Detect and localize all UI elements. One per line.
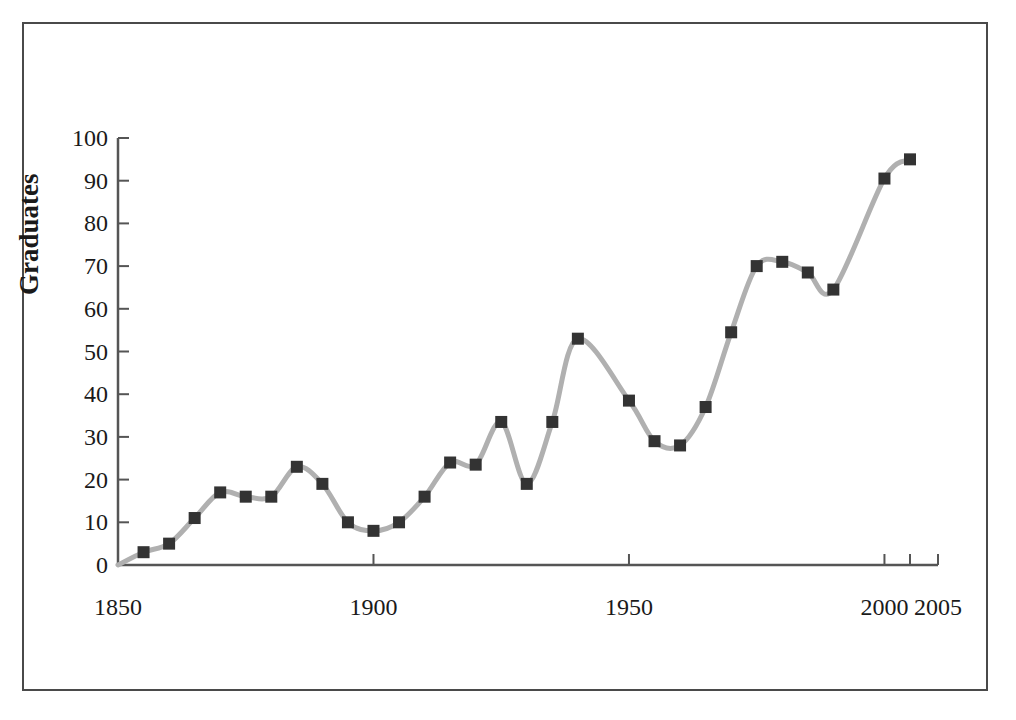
data-point-marker	[546, 416, 558, 428]
data-point-marker	[649, 435, 661, 447]
data-point-marker	[265, 491, 277, 503]
data-point-marker	[878, 173, 890, 185]
data-point-marker	[316, 478, 328, 490]
data-point-marker	[827, 284, 839, 296]
figure-container: Graduates 0102030405060708090100 1850190…	[0, 0, 1016, 720]
data-point-marker	[802, 267, 814, 279]
data-point-marker	[700, 401, 712, 413]
data-point-marker	[572, 333, 584, 345]
data-point-marker	[138, 546, 150, 558]
data-point-marker	[495, 416, 507, 428]
data-point-marker	[163, 538, 175, 550]
data-point-marker	[904, 153, 916, 165]
data-point-marker	[725, 326, 737, 338]
data-point-marker	[444, 457, 456, 469]
data-point-marker	[393, 516, 405, 528]
data-point-marker	[367, 525, 379, 537]
data-point-marker	[240, 491, 252, 503]
data-point-marker	[623, 395, 635, 407]
data-point-marker	[189, 512, 201, 524]
data-point-marker	[419, 491, 431, 503]
data-point-marker	[214, 486, 226, 498]
line-chart-plot	[0, 0, 1016, 720]
data-point-marker	[521, 478, 533, 490]
data-point-marker	[751, 260, 763, 272]
data-series-line	[118, 159, 910, 565]
data-point-marker	[776, 256, 788, 268]
data-point-marker	[470, 459, 482, 471]
data-point-marker	[342, 516, 354, 528]
data-point-marker	[674, 439, 686, 451]
data-point-marker	[291, 461, 303, 473]
